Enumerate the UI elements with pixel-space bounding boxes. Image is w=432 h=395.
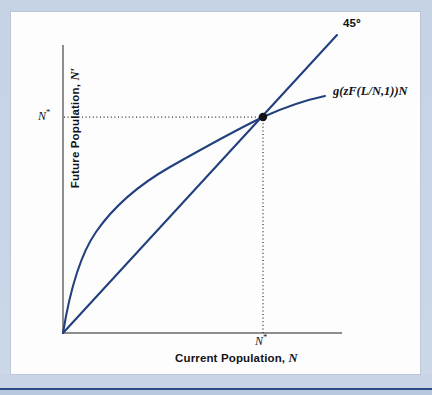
population-function-label: g(zF(L/N,1))N [333, 85, 408, 98]
x-axis-title-variable: N [289, 351, 298, 365]
y-axis-title-variable: N′ [68, 68, 82, 81]
steady-state-point [259, 113, 267, 121]
x-axis-title: Current Population, N [175, 352, 298, 365]
y-axis-tick-label-base: N [38, 109, 46, 123]
y-axis-title: Future Population, N′ [67, 53, 83, 203]
x-axis-title-text: Current Population, [175, 352, 289, 364]
forty-five-degree-label: 45º [343, 18, 361, 30]
x-axis-tick-label-base: N [255, 334, 263, 348]
y-axis-tick-label-superscript: * [46, 107, 50, 117]
x-axis-tick-label-superscript: * [263, 332, 267, 342]
malthusian-steady-state-chart [0, 0, 432, 395]
y-axis-tick-label-nstar: N* [38, 108, 50, 122]
x-axis-tick-label-nstar: N* [255, 333, 267, 347]
population-growth-curve [63, 96, 325, 333]
y-axis-title-rotator: Future Population, N′ [67, 53, 83, 203]
y-axis-title-text: Future Population, [69, 81, 81, 189]
forty-five-degree-line [63, 35, 337, 333]
